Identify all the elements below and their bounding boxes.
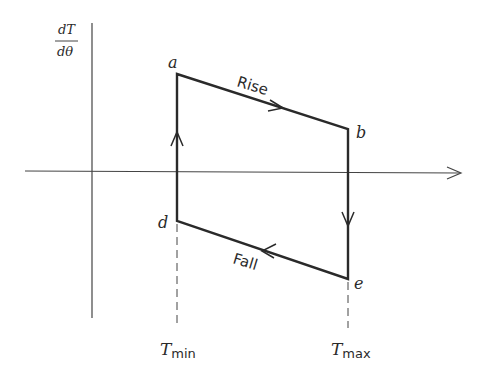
y-label-denominator: dθ [57, 44, 73, 59]
cycle-path [177, 74, 348, 279]
point-e-label: e [354, 274, 363, 293]
t-max-label: Tmax [331, 339, 371, 361]
t-min-label: Tmin [160, 339, 196, 361]
point-d-label: d [158, 213, 168, 232]
y-label-numerator: dT [58, 22, 76, 37]
x-axis [25, 171, 460, 173]
cycle-diagram: dT dθ a b e d Rise Fall Tmin Tmax [0, 0, 482, 372]
point-a-label: a [168, 53, 178, 72]
point-b-label: b [356, 123, 366, 142]
fall-label: Fall [231, 250, 260, 274]
